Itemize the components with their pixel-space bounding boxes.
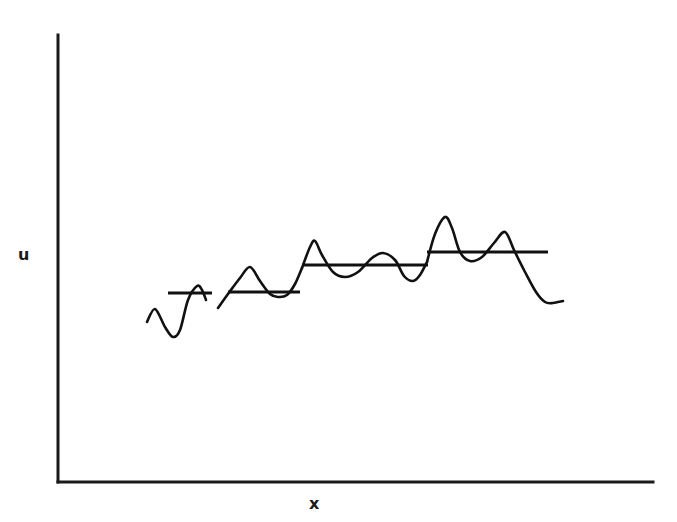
signal-segment-3 xyxy=(302,241,427,281)
chart-canvas xyxy=(0,0,677,522)
y-axis-label: u xyxy=(18,245,29,264)
signal-segment-2 xyxy=(218,267,302,308)
signal-curves xyxy=(147,217,563,337)
signal-segment-4 xyxy=(427,217,563,303)
x-axis-label: x xyxy=(309,494,319,513)
